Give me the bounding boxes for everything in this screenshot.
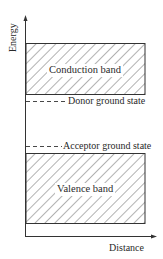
y-axis-arrow-icon	[24, 15, 28, 21]
energy-band-diagram	[0, 0, 163, 259]
x-axis	[25, 235, 157, 239]
acceptor-level-label: Acceptor ground state	[63, 141, 151, 151]
y-axis-label: Energy	[8, 23, 18, 52]
conduction-band-label: Conduction band	[47, 64, 123, 77]
valence-band-label: Valence band	[55, 183, 115, 196]
x-axis-arrow-icon	[151, 235, 157, 239]
donor-level-label: Donor ground state	[68, 96, 145, 106]
x-axis-label: Distance	[109, 243, 144, 253]
